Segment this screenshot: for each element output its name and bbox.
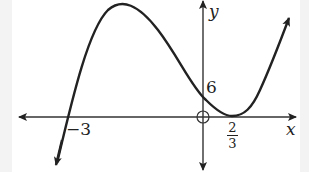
cubic-graph xyxy=(0,0,309,172)
x-intercept-left-label: −3 xyxy=(66,121,91,138)
x-axis-label: x xyxy=(286,121,296,138)
curve-left-arrow xyxy=(56,140,62,165)
y-intercept-label: 6 xyxy=(206,79,217,96)
y-axis-label: y xyxy=(209,3,219,20)
x-intercept-fraction: 2 3 xyxy=(227,121,238,150)
fraction-denominator: 3 xyxy=(228,136,236,151)
cubic-curve xyxy=(57,4,289,163)
fraction-numerator: 2 xyxy=(228,120,236,135)
